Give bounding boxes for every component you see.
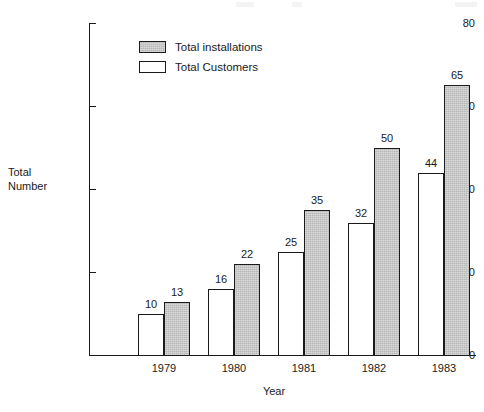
plot-area: 10131622253532504465 [90,23,476,356]
bar-1983-customers [418,173,444,356]
bar-value-label-1979-installations: 13 [157,287,197,298]
y-axis-title-line-2: Number [8,180,82,194]
bar-1982-customers [348,223,374,356]
bar-1982-installations [374,148,400,356]
bar-1979-installations [164,302,190,356]
bar-1981-installations [304,210,330,356]
scan-artifact [455,2,477,7]
x-tick-label-1983: 1983 [414,363,474,374]
bar-1979-customers [138,314,164,356]
x-tick-label-1981: 1981 [274,363,334,374]
bar-value-label-1982-installations: 50 [367,133,407,144]
y-axis-title-line-1: Total [8,166,82,180]
x-tick-label-1982: 1982 [344,363,404,374]
x-tick-label-1980: 1980 [204,363,264,374]
y-axis-title: Total Number [8,166,82,193]
bar-value-label-1980-installations: 22 [227,249,267,260]
bar-1983-installations [444,85,470,356]
bar-chart: 80 60 40 20 0 Total Number Total install… [0,0,484,412]
scan-artifact [292,2,302,7]
x-tick-label-1979: 1979 [134,363,194,374]
scan-artifact [236,2,254,7]
x-axis-title: Year [0,386,484,397]
bar-value-label-1983-installations: 65 [437,70,477,81]
bar-1981-customers [278,252,304,356]
bar-1980-installations [234,264,260,356]
bar-1980-customers [208,289,234,356]
bar-value-label-1981-installations: 35 [297,195,337,206]
